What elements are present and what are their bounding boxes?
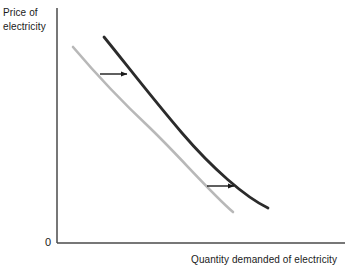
x-axis-label: Quantity demanded of electricity xyxy=(191,253,337,267)
y-axis-label-line1: Price of xyxy=(3,7,38,18)
y-axis-label-line2: electricity xyxy=(3,21,46,32)
demand-curve-shifted xyxy=(104,37,268,208)
y-axis-label: Price ofelectricity xyxy=(3,6,46,34)
demand-curve-original xyxy=(73,47,233,212)
origin-label: 0 xyxy=(45,236,51,248)
chart-canvas xyxy=(0,0,350,271)
demand-curve-figure: Price ofelectricity Quantity demanded of… xyxy=(0,0,350,271)
